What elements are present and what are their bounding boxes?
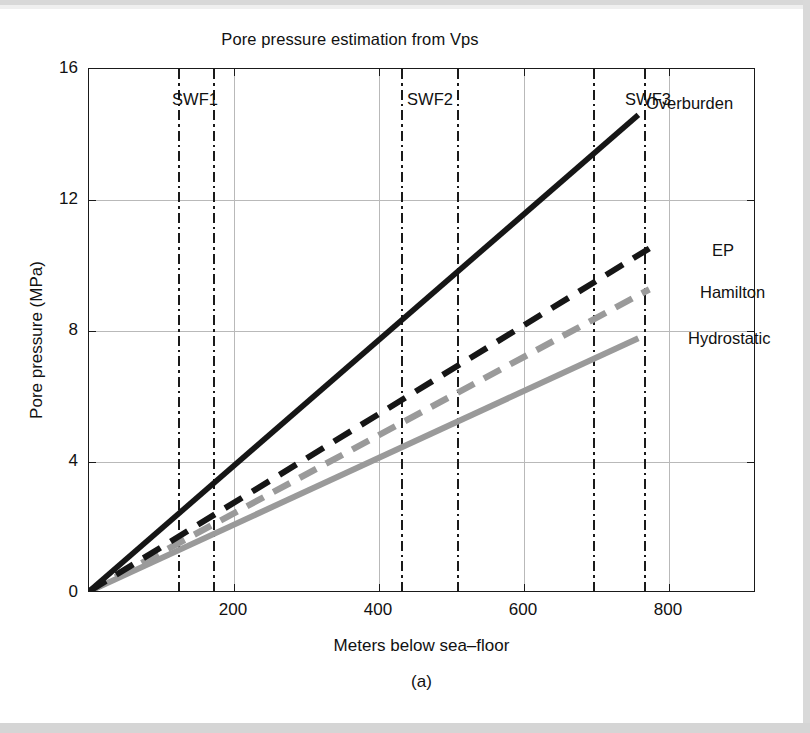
x-axis-label: Meters below sea–floor	[88, 636, 755, 656]
plot-area	[88, 68, 755, 592]
series-line-hamilton	[89, 289, 649, 591]
x-tick-label-200: 200	[193, 600, 273, 620]
page-background: Pore pressure estimation from Vps 16 12 …	[0, 0, 810, 733]
page-edge-right	[803, 0, 810, 733]
series-line-overburden	[89, 115, 638, 591]
swf1-label: SWF1	[135, 90, 255, 109]
series-line-hydrostatic	[89, 338, 638, 591]
swf2-label: SWF2	[370, 90, 490, 109]
series-label-hydrostatic: Hydrostatic	[688, 329, 771, 348]
x-tick-label-800: 800	[628, 600, 708, 620]
y-tick-label-0: 0	[38, 582, 78, 602]
y-tick-label-16: 16	[38, 58, 78, 78]
figure-caption: (a)	[88, 672, 755, 692]
x-tick-label-400: 400	[338, 600, 418, 620]
page-edge-bottom	[0, 723, 810, 733]
figure-pore-pressure: Pore pressure estimation from Vps 16 12 …	[0, 0, 803, 723]
chart-title: Pore pressure estimation from Vps	[0, 30, 700, 49]
plot-inner	[89, 69, 754, 591]
series-label-hamilton: Hamilton	[700, 283, 765, 302]
series-label-overburden: Overburden	[646, 94, 733, 113]
series-lines	[89, 69, 754, 591]
y-axis-label: Pore pressure (MPa)	[27, 190, 47, 490]
x-tick-label-600: 600	[483, 600, 563, 620]
series-line-ep	[89, 248, 649, 591]
series-label-ep: EP	[712, 241, 734, 260]
